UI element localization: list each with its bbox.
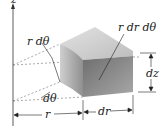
radius-label: r bbox=[45, 108, 51, 121]
angle-label: dθ bbox=[43, 92, 57, 105]
arrow-up-icon bbox=[149, 54, 153, 58]
arrow-left-icon bbox=[84, 110, 88, 114]
front-face bbox=[83, 56, 133, 97]
arrow-right-icon bbox=[78, 111, 82, 115]
volume-element-diagram: z r dθ r dr dθ dθ bbox=[0, 0, 160, 138]
height-label: dz bbox=[146, 67, 159, 80]
arc-length-label: r dθ bbox=[27, 35, 50, 48]
radial-width-label: dr bbox=[98, 105, 111, 118]
radial-dimensions bbox=[14, 95, 133, 120]
z-axis-label: z bbox=[10, 0, 17, 6]
arrow-left-icon bbox=[14, 113, 18, 117]
arrow-right-icon bbox=[128, 108, 132, 112]
arrow-down-icon bbox=[149, 87, 153, 91]
top-area-label: r dr dθ bbox=[118, 21, 157, 34]
